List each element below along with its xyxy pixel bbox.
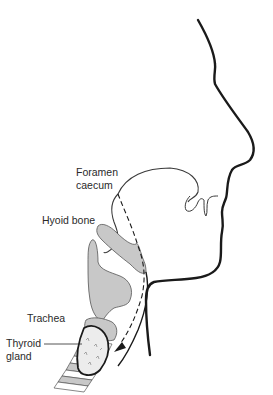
label-foramen-caecum-2: caecum [76,179,113,191]
label-trachea: Trachea [27,312,65,324]
tongue-outline [118,168,198,202]
thyroid-descent-diagram: Foramen caecum Hyoid bone Trachea Thyroi… [0,0,273,395]
label-thyroid-gland-2: gland [6,350,32,362]
descent-arrow-icon [114,342,126,352]
label-hyoid-bone: Hyoid bone [42,214,95,226]
label-foramen-caecum-1: Foramen [76,166,118,178]
thyroid-gland-shape [77,326,108,375]
label-thyroid-gland-1: Thyroid [6,337,41,349]
face-profile-outline [146,20,254,355]
